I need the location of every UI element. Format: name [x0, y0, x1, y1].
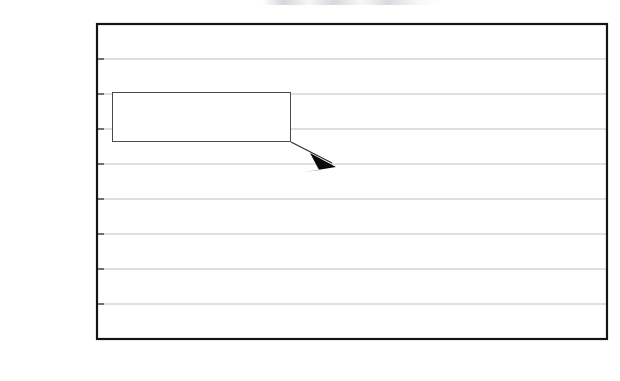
chart-figure — [0, 0, 620, 381]
plot-area — [0, 0, 620, 381]
plot-frame — [97, 24, 607, 339]
annotation-leader-line — [291, 142, 332, 163]
annotation-box — [112, 92, 291, 142]
annotation-arrow — [291, 142, 336, 172]
